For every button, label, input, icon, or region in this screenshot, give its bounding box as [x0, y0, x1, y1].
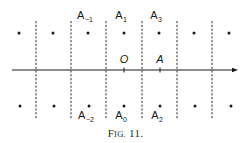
lattice-point — [228, 32, 231, 35]
lattice-point — [193, 32, 196, 35]
bottom-lattice-points — [19, 105, 233, 108]
lattice-diagram: OA A−1A1A3 A−2A0A2 — [0, 0, 251, 143]
point-label: A−2 — [78, 109, 94, 123]
lattice-point — [159, 105, 162, 108]
caption-smallcaps: IG. — [114, 129, 126, 139]
lattice-point — [18, 32, 21, 35]
top-point-labels: A−1A1A3 — [77, 9, 162, 23]
bottom-point-labels: A−2A0A2 — [78, 109, 163, 123]
lattice-point — [123, 105, 126, 108]
point-label: A0 — [115, 109, 127, 123]
lattice-point — [158, 32, 161, 35]
point-label: A3 — [150, 9, 162, 23]
real-axis — [12, 68, 238, 72]
lattice-point — [19, 105, 22, 108]
lattice-point — [230, 105, 233, 108]
caption-number: 11. — [129, 127, 143, 139]
tick-label: O — [120, 53, 129, 65]
lattice-point — [123, 32, 126, 35]
lattice-point — [87, 32, 90, 35]
lattice-point — [53, 105, 56, 108]
top-lattice-points — [18, 32, 231, 35]
arrow-right-icon — [232, 68, 238, 72]
lattice-point — [194, 105, 197, 108]
point-label: A2 — [151, 109, 163, 123]
point-label: A1 — [115, 9, 127, 23]
point-label: A−1 — [77, 9, 93, 23]
tick-label: A — [155, 53, 163, 65]
lattice-point — [88, 105, 91, 108]
lattice-point — [52, 32, 55, 35]
figure-caption: FIG. 11. — [0, 127, 251, 139]
